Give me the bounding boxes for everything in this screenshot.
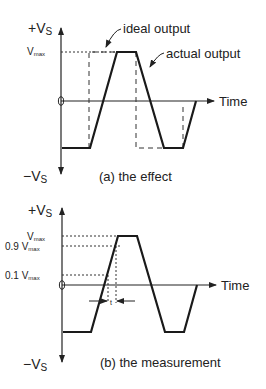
actual-output-wave bbox=[63, 236, 197, 332]
caption-a: (a) the effect bbox=[99, 169, 172, 184]
caption-b: (b) the measurement bbox=[100, 355, 221, 370]
diagram-b: +VS −VS Time Vmax 0.9 Vmax 0.1 Vmax t (b… bbox=[5, 202, 249, 373]
rise-time-label: t bbox=[110, 299, 112, 306]
level-01-label: 0.1 Vmax bbox=[5, 270, 40, 281]
x-axis-label: Time bbox=[219, 94, 247, 109]
actual-output-label: actual output bbox=[166, 46, 241, 61]
actual-leader bbox=[150, 53, 164, 67]
y-bottom-label: −VS bbox=[23, 356, 48, 373]
level-09-label: 0.9 Vmax bbox=[5, 241, 40, 252]
y-top-label: +VS bbox=[28, 202, 53, 219]
level-vmax-label: Vmax bbox=[27, 231, 45, 242]
ideal-output-label: ideal output bbox=[123, 21, 191, 36]
y-top-label: +VS bbox=[28, 20, 53, 37]
ideal-leader bbox=[106, 29, 121, 47]
x-axis-label: Time bbox=[221, 278, 249, 293]
vmax-label: Vmax bbox=[27, 46, 45, 57]
y-bottom-label: −VS bbox=[23, 168, 48, 185]
actual-output-wave bbox=[62, 52, 196, 148]
diagram-a: +VS −VS Time Vmax ideal output actual ou… bbox=[23, 20, 247, 185]
slew-rate-diagram: +VS −VS Time Vmax ideal output actual ou… bbox=[0, 0, 266, 389]
